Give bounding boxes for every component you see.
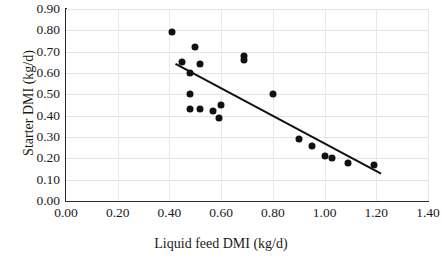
x-tick-label: 0.20: [90, 206, 146, 220]
gridline-horizontal: [66, 94, 428, 95]
data-point: [187, 91, 194, 98]
data-point: [295, 136, 302, 143]
x-tick-label: 0.60: [193, 206, 249, 220]
data-point: [321, 153, 328, 160]
x-tick-label: 0.40: [141, 206, 197, 220]
gridline-horizontal: [66, 180, 428, 181]
x-tick-label: 1.00: [297, 206, 353, 220]
gridline-horizontal: [66, 30, 428, 31]
data-point: [370, 161, 377, 168]
data-point: [197, 106, 204, 113]
gridline-horizontal: [66, 73, 428, 74]
data-point: [329, 155, 336, 162]
data-point: [344, 159, 351, 166]
x-tick-label: 1.20: [348, 206, 404, 220]
data-point: [218, 102, 225, 109]
y-axis-title: Starter DMI (kg/d): [21, 8, 37, 198]
data-point: [241, 57, 248, 64]
gridline-horizontal: [66, 137, 428, 138]
data-point: [192, 44, 199, 51]
data-point: [179, 59, 186, 66]
data-point: [169, 29, 176, 36]
scatter-chart: 0.000.100.200.300.400.500.600.700.800.90…: [0, 0, 442, 262]
gridline-vertical: [325, 9, 326, 201]
gridline-horizontal: [66, 9, 428, 10]
gridline-horizontal: [66, 116, 428, 117]
data-point: [269, 91, 276, 98]
gridline-horizontal: [66, 158, 428, 159]
gridline-vertical: [118, 9, 119, 201]
data-point: [197, 61, 204, 68]
gridline-horizontal: [66, 52, 428, 53]
gridline-vertical: [428, 9, 429, 201]
data-point: [308, 142, 315, 149]
data-point: [215, 114, 222, 121]
x-tick-label: 0.00: [38, 206, 94, 220]
plot-area: [66, 9, 428, 201]
data-point: [187, 70, 194, 77]
gridline-vertical: [169, 9, 170, 201]
x-tick-label: 0.80: [245, 206, 301, 220]
x-axis-title: Liquid feed DMI (kg/d): [0, 236, 442, 252]
data-point: [187, 106, 194, 113]
x-tick-label: 1.40: [400, 206, 442, 220]
gridline-vertical: [273, 9, 274, 201]
